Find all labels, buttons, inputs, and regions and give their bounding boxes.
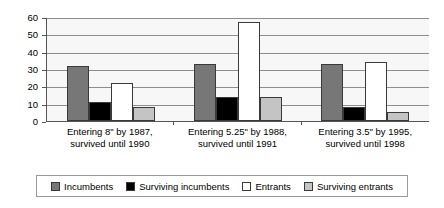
legend-item-surv-incumbents[interactable]: Surviving incumbents <box>126 181 229 192</box>
bar-group <box>174 18 301 121</box>
bar-surv-entrants <box>260 97 282 121</box>
legend-item-incumbents[interactable]: Incumbents <box>51 181 113 192</box>
y-axis-tick-label: 0 <box>33 117 38 127</box>
bar-incumbents <box>67 66 89 121</box>
legend-swatch-surv-entrants <box>304 182 313 191</box>
bar-chart: 0102030405060 Entering 8" by 1987,surviv… <box>0 0 444 208</box>
bar-surv-incumbents <box>89 102 111 121</box>
bar-group <box>47 18 174 121</box>
category-label-line: survived until 1991 <box>174 138 302 150</box>
x-axis-category-label: Entering 5.25" by 1988,survived until 19… <box>174 126 302 149</box>
y-axis-tick-label: 20 <box>27 82 38 92</box>
bar-group <box>302 18 429 121</box>
bar-entrants <box>238 22 260 121</box>
category-label-line: Entering 3.5" by 1995, <box>301 126 429 138</box>
y-axis-tick-mark <box>42 122 46 123</box>
bar-incumbents <box>194 64 216 121</box>
category-label-line: survived until 1998 <box>301 138 429 150</box>
chart-legend: IncumbentsSurviving incumbentsEntrantsSu… <box>36 175 408 197</box>
bar-surv-incumbents <box>216 97 238 121</box>
x-axis-group-separator <box>301 121 302 125</box>
bar-entrants <box>365 62 387 121</box>
y-axis-tick-label: 40 <box>27 48 38 58</box>
legend-label: Surviving entrants <box>317 181 393 192</box>
bar-surv-incumbents <box>343 107 365 121</box>
x-axis-category-label: Entering 3.5" by 1995,survived until 199… <box>301 126 429 149</box>
x-axis-category-labels: Entering 8" by 1987,survived until 1990E… <box>46 126 429 149</box>
bar-surv-entrants <box>133 107 155 121</box>
legend-item-surv-entrants[interactable]: Surviving entrants <box>304 181 393 192</box>
category-label-line: survived until 1990 <box>46 138 174 150</box>
y-axis-tick-label: 50 <box>27 30 38 40</box>
bar-groups <box>47 18 429 121</box>
y-axis-tick-label: 30 <box>27 65 38 75</box>
legend-swatch-incumbents <box>51 182 60 191</box>
legend-swatch-entrants <box>242 182 251 191</box>
category-label-line: Entering 8" by 1987, <box>46 126 174 138</box>
y-axis: 0102030405060 <box>0 18 42 122</box>
legend-label: Surviving incumbents <box>139 181 229 192</box>
bar-incumbents <box>321 64 343 121</box>
x-axis-category-label: Entering 8" by 1987,survived until 1990 <box>46 126 174 149</box>
x-axis-group-separator <box>173 121 174 125</box>
legend-label: Incumbents <box>64 181 113 192</box>
bar-surv-entrants <box>387 112 409 121</box>
legend-swatch-surv-incumbents <box>126 182 135 191</box>
legend-item-entrants[interactable]: Entrants <box>242 181 290 192</box>
plot-area <box>46 18 429 122</box>
bar-entrants <box>111 83 133 121</box>
legend-label: Entrants <box>255 181 290 192</box>
y-axis-tick-label: 60 <box>27 13 38 23</box>
y-axis-tick-label: 10 <box>27 100 38 110</box>
category-label-line: Entering 5.25" by 1988, <box>174 126 302 138</box>
